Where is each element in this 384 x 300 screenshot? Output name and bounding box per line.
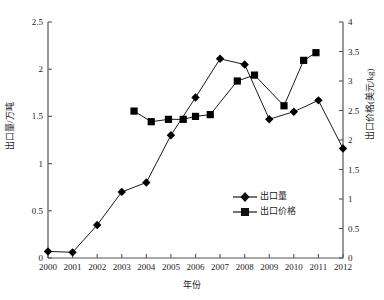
data-point-diamond bbox=[314, 96, 322, 104]
data-point-square bbox=[207, 111, 214, 118]
legend-item-export-price: 出口价格 bbox=[232, 204, 296, 219]
data-point-square bbox=[280, 102, 287, 109]
data-point-square bbox=[234, 77, 241, 84]
x-axis-tick: 2008 bbox=[236, 263, 254, 272]
data-point-diamond bbox=[290, 107, 298, 115]
y-axis-right-tick: 3.5 bbox=[348, 47, 359, 56]
x-axis-tick: 2003 bbox=[113, 263, 131, 272]
series-line-export-price bbox=[134, 53, 316, 122]
series-line-export-volume bbox=[48, 59, 343, 253]
data-point-square bbox=[251, 72, 258, 79]
x-axis-tick: 2000 bbox=[39, 263, 57, 272]
x-axis-tick: 2011 bbox=[310, 263, 328, 272]
x-axis-tick: 2002 bbox=[88, 263, 106, 272]
legend-label-export-price: 出口价格 bbox=[260, 207, 296, 216]
data-point-diamond bbox=[265, 115, 273, 123]
y-axis-left-tick: 2.5 bbox=[32, 18, 43, 27]
data-point-square bbox=[180, 116, 187, 123]
data-point-square bbox=[192, 113, 199, 120]
x-axis-tick: 2005 bbox=[162, 263, 180, 272]
data-point-square bbox=[300, 57, 307, 64]
data-point-diamond bbox=[44, 247, 52, 255]
data-point-square bbox=[312, 49, 319, 56]
data-point-square bbox=[165, 116, 172, 123]
x-axis-tick: 2001 bbox=[64, 263, 82, 272]
y-axis-right-tick: 2 bbox=[348, 136, 353, 145]
data-point-diamond bbox=[240, 60, 248, 68]
x-axis-tick: 2012 bbox=[334, 263, 352, 272]
y-axis-right-tick: 2.5 bbox=[348, 106, 359, 115]
y-axis-right-tick: 3 bbox=[348, 77, 353, 86]
y-axis-right-tick: 1.5 bbox=[348, 165, 359, 174]
data-point-diamond bbox=[167, 131, 175, 139]
data-point-diamond bbox=[118, 188, 126, 196]
y-axis-right-tick: 1 bbox=[348, 195, 353, 204]
data-point-square bbox=[130, 107, 137, 114]
x-axis-tick: 2007 bbox=[211, 263, 229, 272]
x-axis-tick: 2006 bbox=[187, 263, 205, 272]
data-point-square bbox=[148, 118, 155, 125]
data-point-diamond bbox=[339, 144, 347, 152]
y-axis-right-tick: 4 bbox=[348, 18, 353, 27]
x-axis-tick: 2004 bbox=[137, 263, 155, 272]
x-axis-title: 年份 bbox=[0, 281, 384, 290]
data-point-diamond bbox=[191, 93, 199, 101]
square-marker-icon bbox=[232, 205, 258, 219]
diamond-marker-icon bbox=[232, 190, 258, 204]
x-axis-tick: 2009 bbox=[260, 263, 278, 272]
chart-figure: 出口量/万吨 出口价格(美元/kg) 年份 00.511.522.500.511… bbox=[0, 0, 384, 300]
x-axis-tick: 2010 bbox=[285, 263, 303, 272]
y-axis-right-title: 出口价格(美元/kg) bbox=[366, 69, 375, 141]
legend-label-export-volume: 出口量 bbox=[260, 192, 287, 201]
chart-legend: 出口量 出口价格 bbox=[232, 189, 296, 219]
y-axis-left-tick: 1.5 bbox=[32, 112, 43, 121]
chart-plot-area bbox=[0, 0, 384, 300]
y-axis-left-tick: 1 bbox=[39, 159, 44, 168]
y-axis-right-tick: 0.5 bbox=[348, 224, 359, 233]
data-point-diamond bbox=[142, 178, 150, 186]
y-axis-left-tick: 2 bbox=[39, 65, 44, 74]
y-axis-left-title: 出口量/万吨 bbox=[6, 102, 15, 150]
data-point-diamond bbox=[216, 55, 224, 63]
legend-item-export-volume: 出口量 bbox=[232, 189, 296, 204]
y-axis-left-tick: 0.5 bbox=[32, 206, 43, 215]
